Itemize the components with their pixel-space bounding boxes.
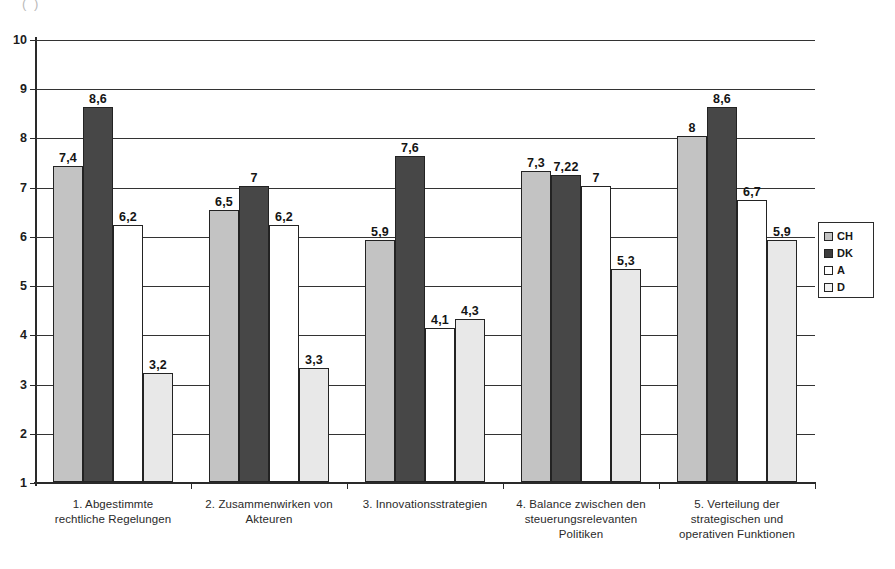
bar-A-group-1: [113, 225, 143, 482]
y-tick-mark-3: [30, 385, 36, 386]
y-tick-label-5: 5: [3, 281, 27, 291]
legend-item-a: A: [824, 262, 873, 279]
bar-D-group-5: [767, 240, 797, 482]
bar-CH-group-5: [677, 136, 707, 482]
y-tick-label-8: 8: [3, 133, 27, 143]
y-tick-label-3: 3: [3, 380, 27, 390]
y-tick-mark-10: [30, 40, 36, 41]
bar-DK-group-2: [239, 186, 269, 482]
y-axis-line: [35, 37, 37, 486]
y-tick-label-1: 1: [3, 478, 27, 488]
bar-value-label-DK-group-2: 7: [227, 172, 281, 184]
y-tick-mark-1: [30, 483, 36, 484]
bar-DK-group-5: [707, 107, 737, 482]
y-tick-mark-5: [30, 286, 36, 287]
bar-value-label-DK-group-1: 8,6: [71, 93, 125, 105]
bar-A-group-2: [269, 225, 299, 482]
legend-label-a: A: [837, 265, 845, 276]
legend-item-ch: CH: [824, 228, 873, 245]
x-axis-line: [34, 482, 816, 484]
x-tick-mark-2: [347, 483, 348, 489]
x-tick-mark-4: [659, 483, 660, 489]
legend-label-d: D: [837, 282, 845, 293]
y-tick-mark-2: [30, 434, 36, 435]
legend-swatch-ch: [824, 232, 833, 241]
bar-CH-group-1: [53, 166, 83, 482]
bar-chart: ( ) 12345678910 7,48,66,23,26,576,23,35,…: [0, 0, 895, 569]
bar-DK-group-4: [551, 175, 581, 482]
y-tick-mark-8: [30, 138, 36, 139]
bar-value-label-D-group-3: 4,3: [443, 305, 497, 317]
chart-legend: CH DK A D: [818, 222, 874, 298]
y-tick-mark-7: [30, 188, 36, 189]
x-tick-mark-1: [191, 483, 192, 489]
legend-swatch-d: [824, 283, 833, 292]
y-tick-label-7: 7: [3, 183, 27, 193]
gridline-9: [35, 89, 815, 90]
legend-swatch-a: [824, 266, 833, 275]
category-label-5: 5. Verteilung derstrategischen undoperat…: [645, 497, 829, 542]
y-tick-mark-6: [30, 237, 36, 238]
y-tick-label-2: 2: [3, 429, 27, 439]
bar-CH-group-4: [521, 171, 551, 482]
bar-D-group-4: [611, 269, 641, 482]
x-tick-mark-5: [815, 483, 816, 489]
bar-CH-group-2: [209, 210, 239, 482]
y-tick-label-9: 9: [3, 84, 27, 94]
bar-D-group-2: [299, 368, 329, 482]
bar-D-group-3: [455, 319, 485, 482]
legend-item-d: D: [824, 279, 873, 296]
y-tick-label-10: 10: [3, 35, 27, 45]
legend-swatch-dk: [824, 249, 833, 258]
legend-label-dk: DK: [837, 248, 853, 259]
bar-A-group-4: [581, 186, 611, 482]
bar-A-group-5: [737, 200, 767, 482]
bar-CH-group-3: [365, 240, 395, 482]
y-tick-mark-9: [30, 89, 36, 90]
y-tick-label-4: 4: [3, 330, 27, 340]
clipped-header-text: ( ): [22, 0, 40, 11]
x-tick-mark-3: [503, 483, 504, 489]
bar-value-label-DK-group-5: 8,6: [695, 93, 749, 105]
legend-item-dk: DK: [824, 245, 873, 262]
bar-DK-group-3: [395, 156, 425, 482]
bar-DK-group-1: [83, 107, 113, 482]
bar-value-label-DK-group-3: 7,6: [383, 142, 437, 154]
legend-label-ch: CH: [837, 231, 853, 242]
bar-D-group-1: [143, 373, 173, 482]
plot-area: [35, 40, 815, 483]
bar-A-group-3: [425, 328, 455, 482]
gridline-10: [35, 40, 815, 41]
y-tick-mark-4: [30, 335, 36, 336]
y-tick-label-6: 6: [3, 232, 27, 242]
